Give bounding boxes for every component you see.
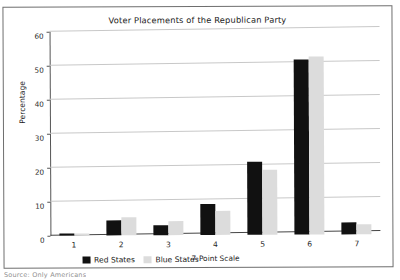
bar-blue-4: [215, 211, 230, 235]
y-tick-mark: [46, 134, 50, 135]
chart-legend: Red StatesBlue States: [83, 255, 199, 265]
legend-entry: Red States: [83, 255, 135, 264]
bar-group: 2: [97, 217, 144, 235]
y-tick-mark: [46, 32, 50, 33]
x-tick-label: 2: [101, 240, 141, 249]
bar-red-4: [200, 204, 215, 235]
bar-red-3: [153, 226, 168, 236]
y-tick-mark: [46, 66, 50, 67]
bar-group: 3: [145, 221, 192, 235]
gridlines: [50, 30, 380, 31]
bar-group: 5: [239, 162, 286, 235]
legend-swatch-blue: [144, 256, 152, 264]
source-note: Source: Only Americans: [4, 271, 86, 280]
y-tick-mark: [47, 236, 51, 237]
y-axis-title: Percentage: [18, 81, 27, 124]
x-tick-label: 7: [337, 239, 377, 248]
bar-group: 7: [333, 222, 380, 234]
bar-group: 6: [285, 56, 333, 235]
x-tick-label: 5: [243, 240, 283, 249]
bar-group: 1: [50, 233, 97, 236]
bar-blue-5: [262, 170, 277, 235]
bar-red-6: [294, 59, 310, 234]
bar-blue-3: [168, 221, 183, 235]
bar-blue-2: [121, 217, 136, 235]
legend-entry: Blue States: [144, 255, 199, 264]
bar-blue-6: [309, 56, 325, 235]
bar-red-7: [342, 222, 357, 234]
x-tick-label: 4: [195, 240, 235, 249]
bar-red-1: [59, 234, 74, 236]
x-tick-label: 1: [54, 240, 94, 249]
bar-red-2: [106, 220, 121, 235]
chart-figure: Voter Placements of the Republican Party…: [2, 5, 393, 269]
bar-red-5: [247, 162, 262, 235]
y-tick-mark: [47, 202, 51, 203]
legend-label: Blue States: [155, 255, 198, 264]
x-tick-label: 6: [290, 239, 330, 248]
plot-area: 0102030405060 1234567 7-Point Scale: [50, 30, 381, 235]
x-tick-label: 3: [148, 240, 188, 249]
legend-swatch-red: [83, 256, 91, 264]
bar-group: 4: [192, 204, 239, 235]
gridline: [50, 26, 380, 32]
chart-title: Voter Placements of the Republican Party: [3, 14, 391, 26]
y-tick-mark: [47, 168, 51, 169]
bar-blue-7: [357, 224, 372, 234]
bar-blue-1: [74, 233, 89, 235]
legend-label: Red States: [94, 255, 135, 264]
y-tick-mark: [46, 100, 50, 101]
